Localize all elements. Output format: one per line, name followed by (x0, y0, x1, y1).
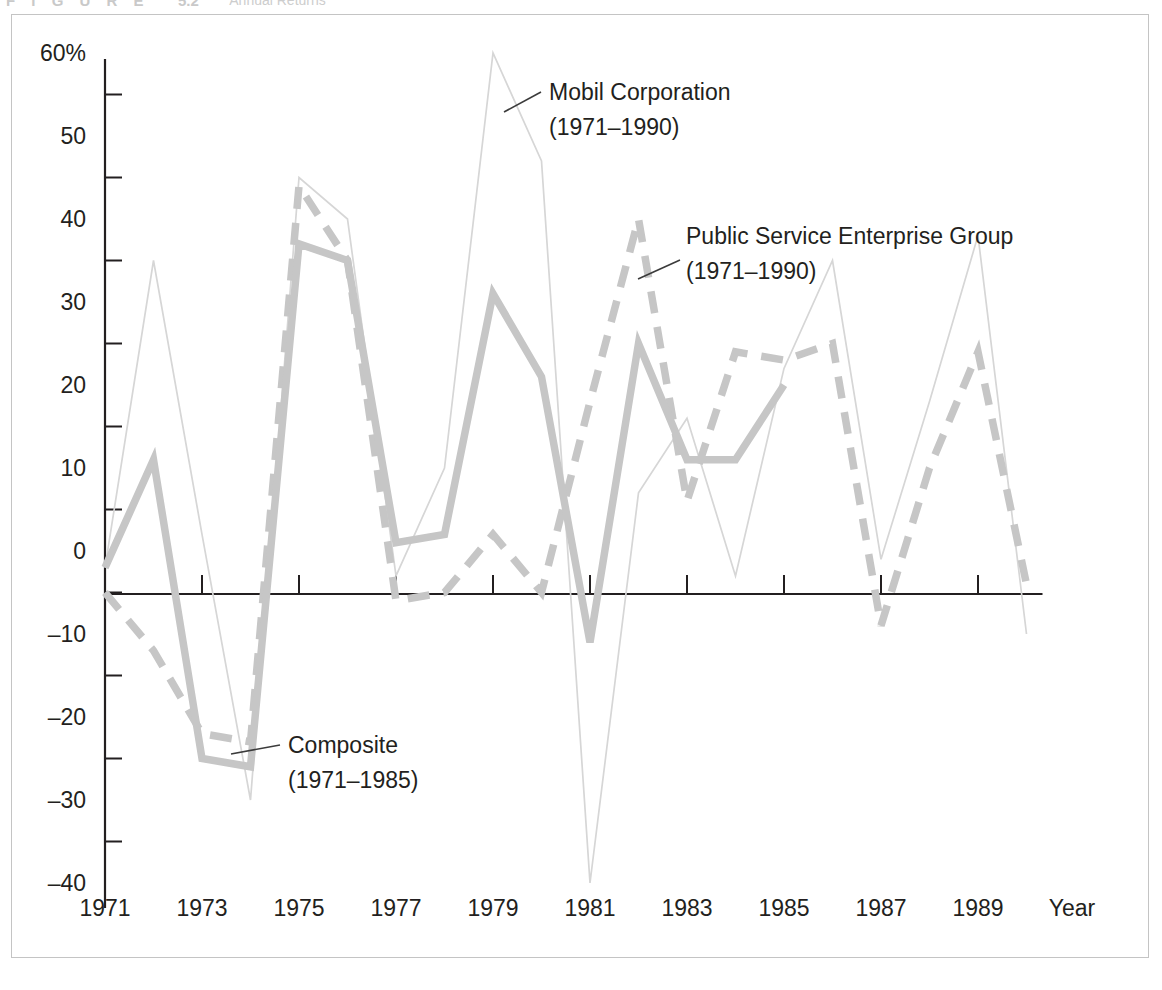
y-axis-tick-labels: 60%50403020100–10–20–30–40 (40, 40, 86, 896)
series-line-mobil-corporation (105, 53, 1027, 883)
y-tick-label--30: –30 (48, 787, 86, 813)
annotation-mobil-line1: Mobil Corporation (549, 79, 731, 105)
x-tick-label-1971: 1971 (79, 895, 130, 921)
series-group (105, 53, 1027, 883)
x-tick-label-1983: 1983 (661, 895, 712, 921)
y-tick-label-60: 60% (40, 40, 86, 66)
annotation-psg-line1: Public Service Enterprise Group (686, 223, 1013, 249)
annotation-composite-line1: Composite (288, 732, 398, 758)
x-axis-title: Year (1049, 895, 1096, 921)
figure-number: 5.2 (178, 0, 199, 9)
x-tick-label-1979: 1979 (467, 895, 518, 921)
annotation-composite: Composite (1971–1985) (231, 732, 418, 793)
y-tick-label-30: 30 (60, 289, 86, 315)
x-tick-label-1989: 1989 (952, 895, 1003, 921)
y-tick-label--20: –20 (48, 704, 86, 730)
x-axis-ticks (202, 575, 978, 594)
y-tick-label-20: 20 (60, 372, 86, 398)
y-axis: 60%50403020100–10–20–30–40 (40, 40, 122, 908)
x-axis-tick-labels: 1971197319751977197919811983198519871989 (79, 895, 1003, 921)
figure-title: Annual Returns (229, 0, 326, 8)
annual-returns-line-chart: 60%50403020100–10–20–30–40 1971197319751… (12, 15, 1148, 957)
callout-leader-mobil (504, 92, 541, 112)
figure-frame: 60%50403020100–10–20–30–40 1971197319751… (11, 14, 1149, 958)
x-tick-label-1981: 1981 (564, 895, 615, 921)
y-tick-label-40: 40 (60, 206, 86, 232)
figure-label: F I G U R E (6, 0, 150, 9)
annotation-mobil: Mobil Corporation (1971–1990) (504, 79, 731, 140)
y-axis-ticks (105, 95, 122, 842)
y-tick-label-0: 0 (73, 538, 86, 564)
series-line-public-service-enterprise-group (105, 186, 1027, 742)
y-tick-label-10: 10 (60, 455, 86, 481)
y-tick-label-50: 50 (60, 123, 86, 149)
x-tick-label-1985: 1985 (758, 895, 809, 921)
annotation-composite-line2: (1971–1985) (288, 767, 418, 793)
annotation-psg-line2: (1971–1990) (686, 258, 816, 284)
x-tick-label-1977: 1977 (370, 895, 421, 921)
x-tick-label-1973: 1973 (176, 895, 227, 921)
annotation-mobil-line2: (1971–1990) (549, 114, 679, 140)
x-tick-label-1975: 1975 (273, 895, 324, 921)
y-tick-label--10: –10 (48, 621, 86, 647)
x-tick-label-1987: 1987 (855, 895, 906, 921)
figure-caption: F I G U R E 5.2 Annual Returns (0, 0, 1162, 10)
y-tick-label--40: –40 (48, 870, 86, 896)
series-line-composite (105, 244, 784, 767)
